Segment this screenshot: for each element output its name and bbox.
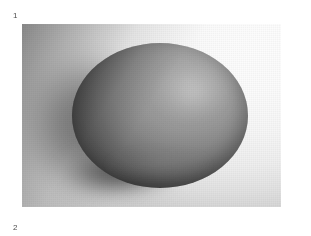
figure-label-bottom: 2 (13, 223, 18, 232)
figure-label-top: 1 (13, 11, 18, 20)
photo-panel-egg (22, 24, 281, 207)
egg-bounce-light (104, 150, 213, 185)
egg-shape (72, 43, 248, 188)
